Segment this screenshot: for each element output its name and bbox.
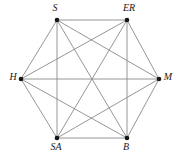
graph-canvas: SERHMSAB (0, 0, 184, 154)
vertex-label-er: ER (122, 2, 135, 13)
vertex-label-b: B (123, 141, 129, 152)
graph-edge-m-sa (57, 79, 159, 138)
graph-vertex-m (157, 77, 162, 82)
graph-vertex-h (19, 77, 24, 82)
graph-edge-s-h (21, 20, 57, 79)
graph-edge-s-m (57, 20, 159, 79)
graph-edge-h-b (21, 79, 127, 138)
graph-edge-er-h (21, 20, 127, 79)
graph-edge-h-sa (21, 79, 57, 138)
vertex-label-h: H (8, 71, 17, 82)
graph-vertex-b (125, 136, 130, 141)
graph-diagram: SERHMSAB (0, 0, 184, 154)
vertex-label-m: M (163, 71, 173, 82)
graph-vertex-s (55, 18, 60, 23)
graph-vertex-sa (55, 136, 60, 141)
vertex-label-s: S (53, 2, 58, 13)
vertex-label-sa: SA (50, 141, 62, 152)
edges-group (21, 20, 159, 138)
graph-vertex-er (125, 18, 130, 23)
